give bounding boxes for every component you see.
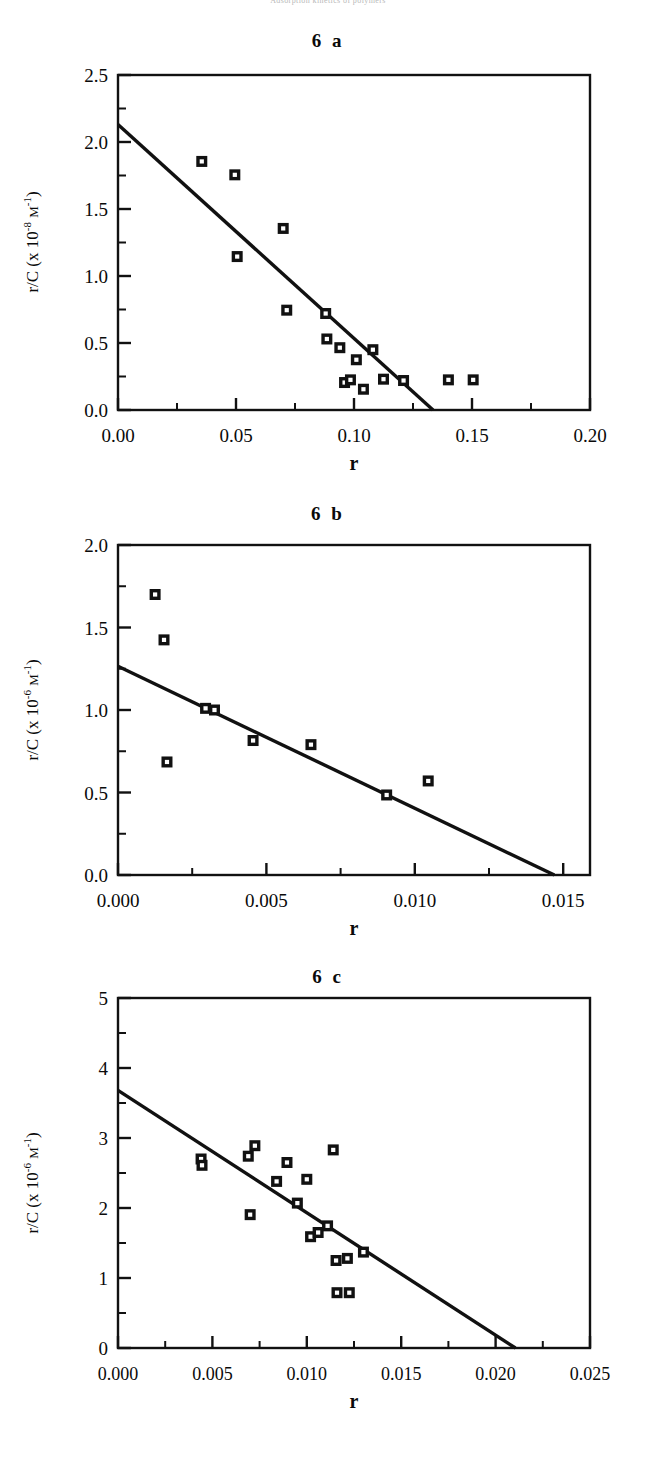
y-axis-label-unit: M — [26, 1147, 41, 1159]
data-point-marker — [197, 1160, 208, 1171]
figure-page: Adsorption kinetics of polymers 6 a — [0, 0, 656, 1459]
data-point-marker — [358, 1247, 369, 1258]
y-tick-label: 0.0 — [84, 400, 108, 421]
marker-inner-square — [235, 254, 239, 258]
marker-inner-square — [471, 378, 475, 382]
x-tick-labels-6c: 0.000 0.005 0.010 0.015 0.020 0.025 — [98, 1364, 611, 1384]
plot-6b: 0.0 0.5 1.0 1.5 2.0 0.000 0.005 0.010 0.… — [0, 485, 656, 950]
panel-6b: 6 b — [0, 485, 656, 950]
marker-inner-square — [309, 743, 313, 747]
x-tick-label: 0.025 — [570, 1364, 611, 1384]
y-tick-label: 2.0 — [84, 132, 108, 153]
y-tick-label: 0.5 — [84, 783, 108, 804]
y-axis-label-unit-exp: -1 — [21, 197, 33, 206]
marker-inner-square — [361, 1250, 365, 1254]
data-point-marker — [358, 384, 369, 395]
y-tick-label: 2.0 — [84, 535, 108, 556]
marker-inner-square — [285, 308, 289, 312]
y-tick-label: 5 — [99, 988, 109, 1009]
data-point-marker — [367, 344, 378, 355]
marker-inner-square — [316, 1230, 320, 1234]
data-point-marker — [249, 1140, 260, 1151]
y-tick-label: 0.5 — [84, 333, 108, 354]
marker-inner-square — [200, 159, 204, 163]
y-axis-label-suffix: ) — [23, 1132, 42, 1138]
y-axis-label-suffix: ) — [23, 659, 42, 665]
y-axis-label-prefix: r/C (x 10 — [23, 1172, 42, 1233]
data-point-marker — [278, 223, 289, 234]
data-point-marker — [322, 1220, 333, 1231]
marker-inner-square — [203, 706, 207, 710]
panel-6c: 6 c — [0, 950, 656, 1459]
data-point-marker — [331, 1255, 342, 1266]
marker-inner-square — [162, 638, 166, 642]
x-tick-label: 0.00 — [101, 425, 134, 446]
y-tick-label: 2.5 — [84, 65, 108, 86]
y-axis-ticks-6b — [118, 545, 131, 875]
x-tick-label: 0.020 — [475, 1364, 516, 1384]
x-tick-label: 0.000 — [98, 1364, 139, 1384]
marker-inner-square — [295, 1201, 299, 1205]
x-tick-label: 0.010 — [287, 1364, 328, 1384]
svg-text:r/C (x 10-6 M-1): r/C (x 10-6 M-1) — [21, 659, 42, 760]
x-tick-label: 0.005 — [192, 1364, 233, 1384]
x-tick-label: 0.05 — [219, 425, 252, 446]
data-point-marker — [321, 333, 332, 344]
marker-inner-square — [324, 311, 328, 315]
y-tick-label: 1.5 — [84, 199, 108, 220]
y-axis-label-suffix: ) — [23, 191, 42, 197]
marker-inner-square — [153, 592, 157, 596]
fit-line-group-6a — [118, 125, 433, 410]
data-point-marker — [196, 156, 207, 167]
data-point-marker — [232, 251, 243, 262]
plot-6a: 0.0 0.5 1.0 1.5 2.0 2.5 0.00 0.05 0.10 0… — [0, 0, 656, 485]
data-point-marker — [229, 169, 240, 180]
x-tick-label: 0.015 — [542, 890, 585, 911]
x-tick-label: 0.20 — [573, 425, 606, 446]
marker-inner-square — [212, 708, 216, 712]
marker-inner-square — [274, 1179, 278, 1183]
marker-inner-square — [325, 1224, 329, 1228]
y-tick-label: 1.0 — [84, 700, 108, 721]
marker-inner-square — [335, 1291, 339, 1295]
data-point-marker — [305, 739, 316, 750]
y-tick-label: 1 — [99, 1268, 109, 1289]
fit-line — [118, 1090, 515, 1348]
y-axis-label-6a: r/C (x 10-8 M-1) — [21, 191, 42, 292]
y-axis-label-6b: r/C (x 10-6 M-1) — [21, 659, 42, 760]
x-axis-ticks-6a — [118, 398, 590, 410]
x-tick-label: 0.15 — [455, 425, 488, 446]
marker-inner-square — [354, 358, 358, 362]
x-axis-label-6b: r — [350, 917, 359, 939]
svg-text:r/C (x 10-6 M-1): r/C (x 10-6 M-1) — [21, 1132, 42, 1233]
data-point-marker — [381, 789, 392, 800]
data-point-marker — [342, 1253, 353, 1264]
y-axis-label-6c: r/C (x 10-6 M-1) — [21, 1132, 42, 1233]
data-point-marker — [248, 735, 259, 746]
marker-inner-square — [371, 348, 375, 352]
data-point-marker — [281, 305, 292, 316]
x-tick-label: 0.000 — [97, 890, 140, 911]
x-tick-labels-6b: 0.000 0.005 0.010 0.015 — [97, 890, 585, 911]
y-tick-label: 0.0 — [84, 865, 108, 886]
marker-inner-square — [334, 1258, 338, 1262]
marker-inner-square — [253, 1144, 257, 1148]
data-point-marker — [150, 589, 161, 600]
y-tick-labels-6c: 0 1 2 3 4 5 — [99, 988, 109, 1359]
data-point-marker — [301, 1174, 312, 1185]
y-axis-label-unit: M — [26, 206, 41, 218]
y-tick-label: 1.0 — [84, 266, 108, 287]
data-point-marker — [161, 756, 172, 767]
marker-inner-square — [446, 378, 450, 382]
y-axis-label-unit-exp: -1 — [21, 665, 33, 674]
fit-line — [118, 125, 433, 410]
marker-inner-square — [345, 1256, 349, 1260]
data-point-marker — [334, 342, 345, 353]
marker-inner-square — [331, 1148, 335, 1152]
panel-6a: 6 a — [0, 0, 656, 485]
data-point-marker — [468, 374, 479, 385]
marker-inner-square — [348, 378, 352, 382]
marker-inner-square — [248, 1213, 252, 1217]
data-point-marker — [209, 705, 220, 716]
x-tick-label: 0.015 — [381, 1364, 422, 1384]
